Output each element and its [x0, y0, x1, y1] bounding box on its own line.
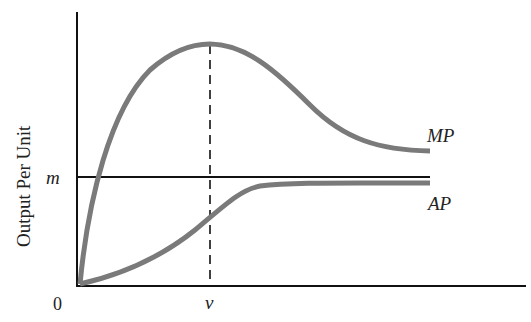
mp-label: MP: [426, 125, 455, 146]
y-axis-label: Output Per Unit: [13, 125, 34, 247]
v-tick-label: v: [205, 292, 214, 313]
chart: MP AP m v 0 Output Per Unit: [0, 0, 531, 322]
mp-curve: [80, 44, 430, 284]
ap-label: AP: [426, 193, 452, 214]
origin-label: 0: [53, 294, 62, 314]
m-tick-label: m: [46, 167, 60, 188]
ap-curve: [80, 183, 430, 284]
